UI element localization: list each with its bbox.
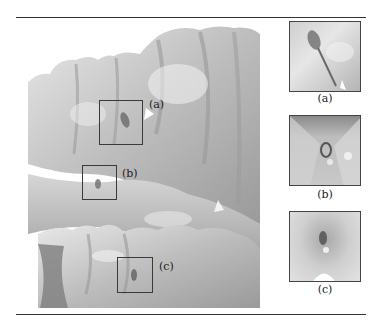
thumbnail-a[interactable] [289,21,361,92]
region-box-a[interactable] [99,100,143,145]
thumbnail-label-a: (a) [289,93,361,105]
region-label-a: (a) [149,99,164,111]
thumbnail-b-detail [290,116,361,186]
bottom-rule [16,314,366,315]
thumbnail-c-detail [290,212,361,282]
thumbnail-label-b: (b) [289,189,361,201]
region-box-c[interactable] [117,257,153,293]
region-label-c: (c) [159,261,174,273]
thumbnail-c[interactable] [289,211,361,282]
thumbnail-b[interactable] [289,115,361,186]
region-label-b: (b) [122,168,138,180]
thumbnail-a-detail [290,22,361,92]
region-box-b[interactable] [82,165,117,200]
thumbnail-label-c: (c) [289,284,361,296]
top-rule [16,17,366,18]
